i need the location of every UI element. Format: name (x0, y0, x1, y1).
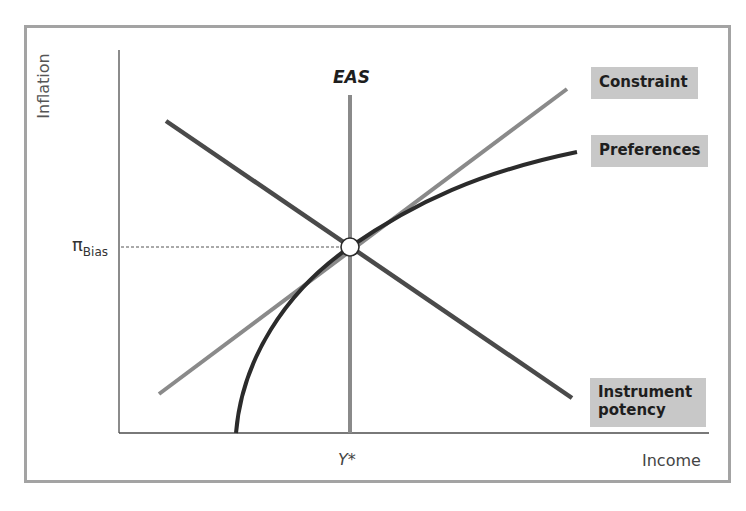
equilibrium-point-marker (341, 238, 359, 256)
preferences-label: Preferences (591, 135, 708, 167)
instrument-potency-label: Instrument potency (590, 378, 706, 427)
y-axis-label-text: Inflation (34, 53, 53, 118)
y-axis-label: Inflation (34, 46, 53, 126)
preferences-curve (236, 152, 577, 433)
instrument-label-line2: potency (598, 401, 698, 419)
constraint-line (159, 89, 567, 394)
eas-label: EAS (333, 67, 370, 87)
preferences-label-text: Preferences (599, 141, 701, 159)
instrument-label-line1: Instrument (598, 383, 698, 401)
y-star-text: Y* (338, 450, 356, 469)
x-axis-label-text: Income (642, 451, 701, 470)
bias-subscript: Bias (83, 245, 108, 259)
instrument-potency-line (166, 121, 572, 398)
x-axis-label: Income (642, 451, 701, 470)
constraint-label: Constraint (591, 67, 698, 99)
pi-symbol: π (72, 234, 83, 255)
eas-label-text: EAS (333, 67, 370, 87)
pi-bias-label: πBias (72, 234, 108, 259)
constraint-label-text: Constraint (599, 73, 688, 91)
y-star-label: Y* (338, 450, 356, 469)
